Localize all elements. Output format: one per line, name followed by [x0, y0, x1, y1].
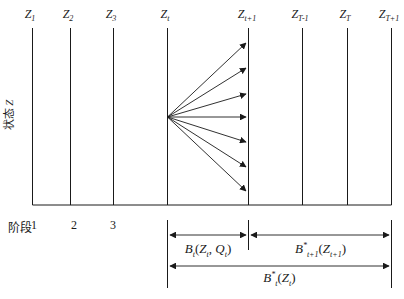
transition-arrow-2 [168, 68, 247, 117]
benefit-total-optimal-label: B*t(Zt) [167, 271, 392, 288]
state-label-zT-1: ZT-1 [291, 8, 308, 23]
state-label-zT: ZT [339, 8, 350, 23]
benefit-t-label: Bt(Zt, Qt) [167, 242, 249, 259]
stage-number-2: 2 [71, 218, 77, 233]
state-label-z3: Z3 [106, 8, 117, 23]
stage-caption: 阶段 [8, 218, 32, 236]
benefit-next-optimal-label: B*t+1(Zt+1) [249, 242, 392, 259]
stage-number-3: 3 [110, 218, 116, 233]
transition-arrow-6 [168, 117, 247, 167]
y-axis-label: 状态 Z [4, 90, 20, 140]
dp-stage-state-diagram: 状态 Z Z1 Z2 Z3 Zt Zt+1 ZT-1 ZT ZT+1 阶段 1 … [0, 0, 404, 299]
state-label-zt1: Zt+1 [238, 8, 256, 23]
transition-arrow-5 [168, 117, 247, 142]
state-label-zt: Zt [161, 8, 170, 23]
transition-arrow-7 [168, 117, 247, 191]
state-label-z2: Z2 [63, 8, 74, 23]
stage-number-1: 1 [31, 218, 37, 233]
state-label-z1: Z1 [25, 8, 36, 23]
state-label-zT1: ZT+1 [379, 8, 400, 23]
